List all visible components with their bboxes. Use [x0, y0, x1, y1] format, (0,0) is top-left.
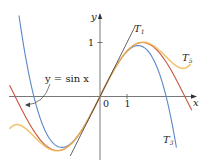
taylor-polynomial-chart: y x 0 1 1 y = sin x T1 T5 T3 — [0, 0, 207, 165]
t1-tangent-line — [70, 26, 135, 156]
x-axis-label: x — [193, 97, 199, 108]
t5-label: T5 — [182, 52, 193, 64]
sin-label-pointer — [26, 84, 50, 105]
t3-curve — [19, 16, 176, 148]
t1-label: T1 — [134, 23, 145, 35]
x-tick-1-label: 1 — [125, 98, 131, 109]
sin-label: y = sin x — [44, 73, 89, 84]
pointer-arrow-icon — [25, 103, 30, 108]
t3-label: T3 — [163, 134, 174, 146]
y-axis-arrow-icon — [98, 13, 102, 19]
origin-label: 0 — [103, 98, 109, 109]
y-tick-1-label: 1 — [88, 37, 94, 48]
y-axis-label: y — [90, 11, 97, 22]
